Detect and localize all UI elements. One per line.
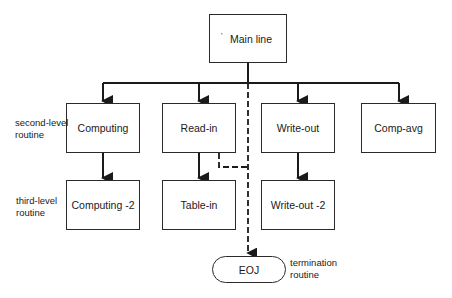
computing-node: Computing bbox=[66, 103, 140, 153]
termination-line1: termination bbox=[290, 257, 337, 269]
table-in-node: Table-in bbox=[162, 180, 236, 230]
eoj-label: EOJ bbox=[239, 264, 259, 276]
third-level-label: third-level routine bbox=[16, 195, 57, 219]
third-level-line1: third-level bbox=[16, 195, 57, 207]
computing-label: Computing bbox=[78, 122, 129, 134]
write-out-node: Write-out bbox=[261, 103, 335, 153]
termination-line2: routine bbox=[290, 269, 337, 281]
third-level-line2: routine bbox=[16, 207, 57, 219]
eoj-node: EOJ bbox=[212, 256, 286, 283]
main-line-node: ' Main line bbox=[209, 14, 287, 63]
tick-mark: ' bbox=[221, 31, 223, 40]
write-out-2-node: Write-out -2 bbox=[261, 180, 335, 230]
termination-label: termination routine bbox=[290, 257, 337, 281]
write-out-2-label: Write-out -2 bbox=[271, 199, 326, 211]
read-in-node: Read-in bbox=[162, 103, 236, 153]
second-level-line2: routine bbox=[15, 129, 68, 141]
read-in-label: Read-in bbox=[181, 122, 218, 134]
write-out-label: Write-out bbox=[277, 122, 319, 134]
second-level-label: second-level routine bbox=[15, 117, 68, 141]
comp-avg-node: Comp-avg bbox=[361, 103, 436, 153]
table-in-label: Table-in bbox=[181, 199, 218, 211]
main-line-label: Main line bbox=[230, 33, 272, 45]
computing-2-node: Computing -2 bbox=[66, 180, 140, 230]
second-level-line1: second-level bbox=[15, 117, 68, 129]
computing-2-label: Computing -2 bbox=[71, 199, 134, 211]
comp-avg-label: Comp-avg bbox=[374, 122, 422, 134]
